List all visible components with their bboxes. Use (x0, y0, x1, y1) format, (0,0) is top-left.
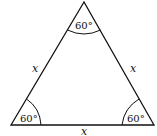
bottom-right-angle-label: 60° (127, 113, 145, 124)
bottom-side-label: x (81, 125, 88, 136)
triangle-diagram: 60° 60° 60° x x x (0, 0, 157, 136)
left-side-label: x (32, 62, 39, 75)
bottom-left-angle-label: 60° (20, 113, 38, 124)
right-side-label: x (130, 62, 137, 75)
top-angle-label: 60° (75, 20, 93, 31)
